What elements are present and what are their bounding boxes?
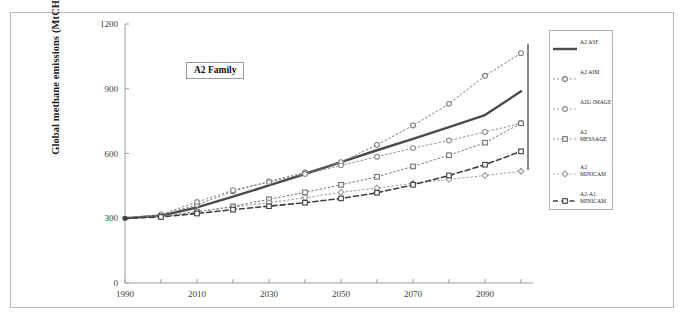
x-tick-label: 2030	[260, 289, 279, 299]
data-point-marker	[339, 196, 344, 201]
data-point-marker	[563, 199, 568, 204]
data-point-marker	[338, 189, 344, 195]
legend-item-a2g-image[interactable]: A2G IMAGE	[552, 99, 612, 110]
data-point-marker	[562, 171, 568, 177]
series-a2g-image	[125, 121, 523, 218]
data-point-marker	[447, 138, 452, 143]
data-point-marker	[519, 121, 524, 126]
x-tick-label: 2070	[404, 289, 423, 299]
data-point-marker	[519, 51, 524, 56]
series-a2-aim	[125, 51, 523, 219]
data-point-marker	[411, 146, 416, 151]
data-point-marker	[195, 200, 200, 205]
data-point-marker	[195, 211, 200, 216]
legend-label: A2G IMAGE	[580, 99, 612, 106]
legend-item-a2-message[interactable]: A2MESSAGE	[552, 129, 612, 143]
data-point-marker	[267, 204, 272, 209]
data-point-marker	[563, 137, 568, 142]
series-a2-minicam	[125, 168, 524, 219]
x-tick-group: 199020102030205020702090	[116, 279, 521, 299]
data-point-marker	[339, 182, 344, 187]
data-point-marker	[339, 163, 344, 168]
x-tick-label: 2090	[476, 289, 495, 299]
x-tick-label: 2010	[188, 289, 207, 299]
data-point-marker	[563, 77, 568, 82]
data-point-marker	[303, 200, 308, 205]
data-point-marker	[231, 188, 236, 193]
series-line	[125, 53, 521, 218]
y-tick-label: 600	[105, 149, 119, 159]
data-point-marker	[483, 140, 488, 145]
series-line	[125, 123, 521, 218]
data-point-marker	[518, 168, 524, 174]
legend-swatch	[552, 100, 578, 110]
legend-swatch	[552, 130, 578, 140]
annotation-a2-family: A2 Family	[186, 62, 244, 79]
data-point-marker	[375, 154, 380, 159]
x-tick-label: 1990	[116, 289, 135, 299]
y-tick-label: 300	[105, 213, 119, 223]
series-line	[125, 123, 521, 218]
data-point-marker	[302, 195, 308, 201]
data-point-marker	[231, 207, 236, 212]
y-tick-label: 1200	[100, 19, 119, 29]
data-point-marker	[411, 164, 416, 169]
legend-swatch	[552, 70, 578, 80]
data-point-marker	[483, 162, 488, 167]
chart-legend: A2 ASFA2 AIMA2G IMAGEA2MESSAGEA2 MINICAM…	[549, 30, 613, 210]
legend-swatch	[552, 165, 578, 175]
data-point-marker	[411, 123, 416, 128]
data-point-marker	[447, 101, 452, 106]
legend-swatch	[552, 192, 578, 202]
legend-label: A2 AIM	[580, 69, 599, 76]
data-point-marker	[375, 190, 380, 195]
plot-area: Global methane emissions (MtCH4/yr) 0300…	[0, 0, 685, 321]
data-point-marker	[303, 172, 308, 177]
data-point-marker	[375, 142, 380, 147]
legend-item-a2-aim[interactable]: A2 AIM	[552, 69, 612, 80]
data-point-marker	[482, 173, 488, 179]
x-tick-label: 2050	[332, 289, 351, 299]
legend-item-a2-minicam[interactable]: A2 MINICAM	[552, 164, 612, 178]
data-point-marker	[519, 149, 524, 154]
legend-label: A2 MINICAM	[580, 164, 612, 178]
data-point-marker	[411, 182, 416, 187]
data-point-marker	[447, 153, 452, 158]
y-tick-label: 0	[114, 278, 119, 288]
data-point-marker	[563, 107, 568, 112]
legend-swatch	[552, 40, 578, 50]
data-point-marker	[483, 73, 488, 78]
series-a2-asf	[125, 91, 521, 218]
data-point-marker	[267, 180, 272, 185]
data-point-marker	[483, 130, 488, 135]
legend-item-a2-a1-minicam[interactable]: A2-A1MINICAM	[552, 191, 612, 205]
y-tick-label: 900	[105, 84, 119, 94]
data-point-marker	[159, 215, 164, 220]
data-series-group	[122, 51, 524, 221]
data-point-marker	[447, 173, 452, 178]
data-point-marker	[303, 190, 308, 195]
series-line	[125, 91, 521, 218]
legend-label: A2 ASF	[580, 39, 599, 46]
origin-data-point	[122, 216, 127, 221]
data-point-marker	[375, 175, 380, 180]
figure-root: Global methane emissions (MtCH4/yr) 0300…	[0, 0, 685, 321]
legend-label: A2-A1MINICAM	[580, 191, 606, 205]
legend-label: A2MESSAGE	[580, 129, 607, 143]
legend-item-a2-asf[interactable]: A2 ASF	[552, 39, 612, 50]
